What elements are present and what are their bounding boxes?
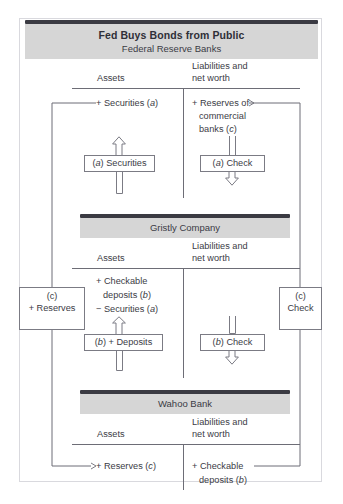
fed-asset-box[interactable]: (a) Securities [84, 155, 155, 172]
connector-fed-securities-to-reserves [52, 103, 96, 287]
gristly-asset-arrow-up [112, 316, 126, 334]
fed-liability-arrow-shaft [229, 136, 236, 156]
right-side-box-line2: Check [280, 303, 321, 315]
gristly-asset-arrow-shaft [116, 351, 123, 371]
connector-check-to-fed-reserves [249, 103, 300, 287]
gristly-liability-arrow-shaft [229, 316, 236, 334]
gristly-liability-box[interactable]: (b) Check [200, 334, 265, 351]
fed-liability-box[interactable]: (a) Check [200, 155, 265, 172]
fed-liability-arrow-down [225, 172, 239, 186]
right-side-box-line1: (c) [280, 291, 321, 303]
left-side-box-line1: (c) [20, 291, 84, 303]
left-side-box-reserves[interactable]: (c) + Reserves [19, 287, 85, 330]
connector-lines [0, 0, 343, 504]
left-side-box-line2: + Reserves [20, 303, 84, 315]
gristly-asset-box[interactable]: (b) + Deposits [84, 334, 163, 351]
right-side-box-check[interactable]: (c) Check [279, 287, 322, 330]
gristly-liability-arrow-down [225, 351, 239, 365]
fed-asset-arrow-shaft [116, 172, 123, 194]
figure-canvas: Fed Buys Bonds from Public Federal Reser… [0, 0, 343, 504]
